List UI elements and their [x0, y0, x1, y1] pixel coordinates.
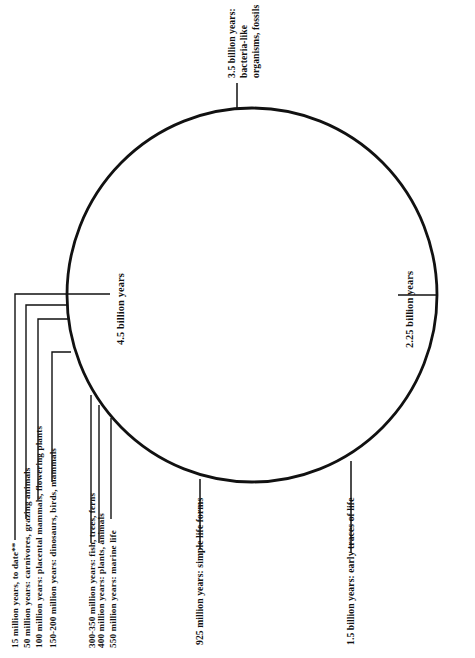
label-3-5-billion-line-1: 3.5 billion years:: [226, 0, 237, 78]
label-150-200-million: 150-200 million years: dinosaurs, birds,…: [48, 448, 58, 648]
label-2-25-billion: 2.25 billion years: [404, 271, 416, 348]
label-3-5-billion-line-2: bacteria-like: [238, 0, 249, 78]
label-1-5-billion: 1.5 billion years: early traces of life: [346, 497, 357, 645]
leader-50-million: [26, 305, 68, 519]
label-15-million: 15 million years, to date**: [10, 542, 20, 648]
label-4-5-billion: 4.5 billion years: [115, 273, 127, 345]
label-3-5-billion-line-3: organisms, fossils: [250, 0, 261, 78]
diagram-canvas: 3.5 billion years: bacteria-like organis…: [0, 0, 475, 658]
label-550-million: 550 million years: marine life: [108, 530, 118, 648]
label-100-million: 100 million years: placental mammals, fl…: [34, 426, 44, 648]
label-400-million: 400 million years: plants, animals: [96, 513, 106, 648]
label-50-million: 50 million years: carnivores, grazing an…: [22, 468, 32, 648]
label-925-million: 925 million years: simple life forms: [195, 498, 206, 645]
